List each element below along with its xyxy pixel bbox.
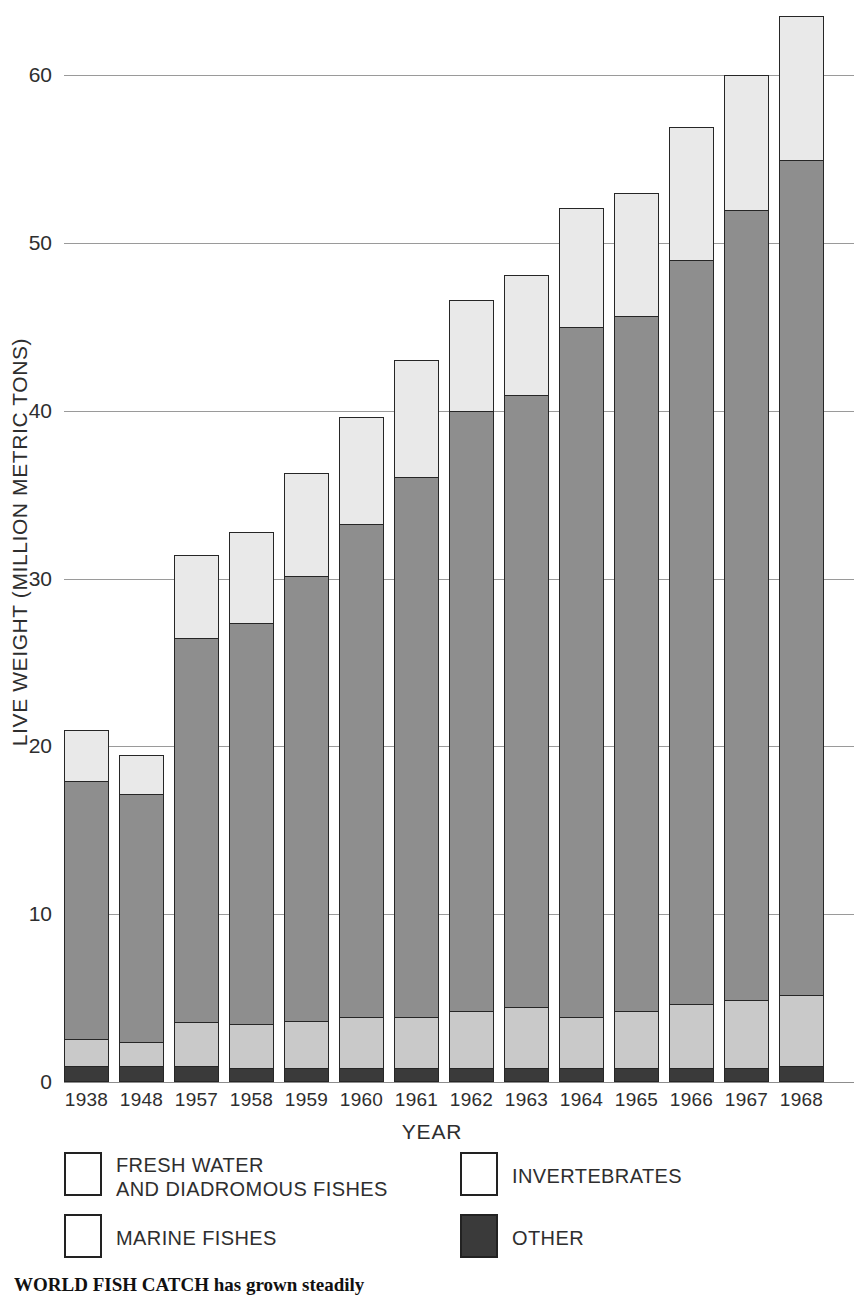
bar-group — [64, 8, 854, 1082]
bar-segment-other-1948 — [119, 1067, 164, 1082]
bar-segment-marine-1967 — [724, 211, 769, 1001]
bar-segment-fresh-1948 — [119, 1043, 164, 1066]
x-tick-label-1962: 1962 — [449, 1089, 494, 1111]
x-tick-label-1967: 1967 — [724, 1089, 769, 1111]
legend-swatch-fresh-water — [64, 1152, 102, 1196]
bar-segment-other-1959 — [284, 1069, 329, 1082]
bar-segment-fresh-1961 — [394, 1018, 439, 1068]
bar-1966[interactable] — [669, 127, 714, 1082]
bar-segment-fresh-1967 — [724, 1001, 769, 1068]
bar-segment-invert-1962 — [449, 300, 494, 412]
bar-segment-other-1967 — [724, 1069, 769, 1082]
legend-item-marine-fishes: MARINE FISHES — [64, 1214, 277, 1258]
bar-1938[interactable] — [64, 730, 109, 1082]
bar-1968[interactable] — [779, 16, 824, 1082]
y-tick-label-40: 40 — [29, 399, 52, 423]
x-axis-title: YEAR — [0, 1120, 864, 1144]
legend-swatch-invertebrates — [460, 1152, 498, 1196]
bar-segment-invert-1966 — [669, 127, 714, 261]
bar-1959[interactable] — [284, 473, 329, 1082]
gridline-0 — [64, 1082, 854, 1083]
x-tick-label-1968: 1968 — [779, 1089, 824, 1111]
x-tick-label-1957: 1957 — [174, 1089, 219, 1111]
bar-segment-marine-1938 — [64, 782, 109, 1040]
bar-segment-invert-1967 — [724, 75, 769, 211]
bar-1965[interactable] — [614, 193, 659, 1083]
x-tick-label-1961: 1961 — [394, 1089, 439, 1111]
bar-segment-other-1958 — [229, 1069, 274, 1082]
bar-segment-marine-1963 — [504, 396, 549, 1009]
bar-segment-invert-1961 — [394, 360, 439, 477]
bar-segment-invert-1960 — [339, 417, 384, 524]
bar-segment-marine-1958 — [229, 624, 274, 1025]
bar-segment-other-1960 — [339, 1069, 384, 1082]
x-tick-label-1966: 1966 — [669, 1089, 714, 1111]
bar-1958[interactable] — [229, 532, 274, 1082]
bar-segment-marine-1965 — [614, 317, 659, 1012]
bar-segment-invert-1958 — [229, 532, 274, 624]
bar-segment-fresh-1958 — [229, 1025, 274, 1069]
bar-segment-marine-1962 — [449, 412, 494, 1011]
bar-1960[interactable] — [339, 417, 384, 1082]
bar-segment-other-1957 — [174, 1067, 219, 1082]
bar-segment-marine-1948 — [119, 795, 164, 1043]
bar-segment-marine-1968 — [779, 161, 824, 997]
x-axis-tick-labels: 1938194819571958195919601961196219631964… — [64, 1089, 854, 1115]
bar-segment-marine-1964 — [559, 328, 604, 1018]
x-tick-label-1964: 1964 — [559, 1089, 604, 1111]
bar-segment-marine-1961 — [394, 478, 439, 1018]
bar-segment-fresh-1968 — [779, 996, 824, 1066]
bar-segment-marine-1959 — [284, 577, 329, 1022]
y-axis-tick-labels: 0102030405060 — [0, 0, 64, 1291]
bar-segment-invert-1938 — [64, 730, 109, 782]
bar-segment-other-1968 — [779, 1067, 824, 1082]
bar-1962[interactable] — [449, 300, 494, 1082]
bar-segment-other-1963 — [504, 1069, 549, 1082]
bar-segment-other-1938 — [64, 1067, 109, 1082]
legend-label-fresh-water: FRESH WATER AND DIADROMOUS FISHES — [116, 1152, 388, 1201]
x-tick-label-1960: 1960 — [339, 1089, 384, 1111]
bar-segment-other-1962 — [449, 1069, 494, 1082]
bar-segment-other-1961 — [394, 1069, 439, 1082]
bar-segment-invert-1948 — [119, 755, 164, 795]
bar-segment-other-1966 — [669, 1069, 714, 1082]
bar-segment-fresh-1957 — [174, 1023, 219, 1067]
bar-1961[interactable] — [394, 360, 439, 1082]
bar-segment-other-1964 — [559, 1069, 604, 1082]
bar-segment-fresh-1959 — [284, 1022, 329, 1069]
bar-segment-fresh-1966 — [669, 1005, 714, 1069]
bar-segment-invert-1964 — [559, 208, 604, 329]
x-tick-label-1938: 1938 — [64, 1089, 109, 1111]
bar-segment-marine-1960 — [339, 525, 384, 1018]
y-tick-label-50: 50 — [29, 231, 52, 255]
x-tick-label-1965: 1965 — [614, 1089, 659, 1111]
legend-item-fresh-water: FRESH WATER AND DIADROMOUS FISHES — [64, 1152, 388, 1201]
y-tick-label-0: 0 — [40, 1070, 52, 1094]
bar-segment-marine-1957 — [174, 639, 219, 1023]
legend-label-marine-fishes: MARINE FISHES — [116, 1214, 277, 1250]
bar-1948[interactable] — [119, 755, 164, 1082]
bar-segment-invert-1968 — [779, 16, 824, 160]
legend-label-other: OTHER — [512, 1214, 584, 1250]
legend-item-invertebrates: INVERTEBRATES — [460, 1152, 682, 1196]
x-tick-label-1959: 1959 — [284, 1089, 329, 1111]
y-tick-label-60: 60 — [29, 63, 52, 87]
y-tick-label-20: 20 — [29, 734, 52, 758]
bar-segment-fresh-1962 — [449, 1012, 494, 1069]
bar-1963[interactable] — [504, 275, 549, 1082]
bar-segment-fresh-1938 — [64, 1040, 109, 1067]
bar-1967[interactable] — [724, 75, 769, 1082]
legend-label-invertebrates: INVERTEBRATES — [512, 1152, 682, 1188]
bar-1964[interactable] — [559, 208, 604, 1082]
bar-segment-fresh-1960 — [339, 1018, 384, 1068]
legend-item-other: OTHER — [460, 1214, 584, 1258]
chart-legend: FRESH WATER AND DIADROMOUS FISHES INVERT… — [0, 1148, 864, 1266]
bar-segment-invert-1963 — [504, 275, 549, 396]
y-tick-label-30: 30 — [29, 567, 52, 591]
legend-swatch-marine-fishes — [64, 1214, 102, 1258]
bar-segment-fresh-1963 — [504, 1008, 549, 1068]
plot-area — [64, 8, 854, 1082]
bar-1957[interactable] — [174, 555, 219, 1082]
bar-segment-invert-1965 — [614, 193, 659, 317]
